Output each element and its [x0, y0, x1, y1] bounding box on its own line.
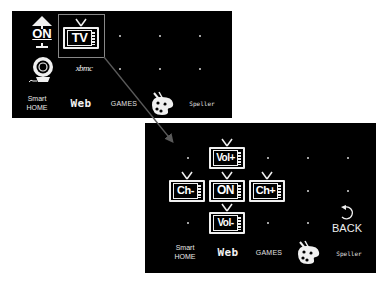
tv-power-button[interactable]: ON: [209, 171, 247, 203]
channel-down-button[interactable]: Ch-: [169, 171, 207, 203]
speller-label: Speller: [189, 100, 214, 107]
speller-label: Speller: [336, 250, 361, 257]
tv-knobs-icon: [238, 217, 241, 230]
empty-slot[interactable]: [119, 68, 121, 70]
tv-label: TV: [67, 30, 92, 46]
games-button[interactable]: GAMES: [249, 245, 289, 259]
smart-home-label-line1: Smart: [28, 94, 47, 103]
tv-control-panel: Vol+ Ch- ON Ch+: [145, 123, 376, 273]
webcam-icon: [27, 55, 57, 85]
tv-power-label: ON: [213, 183, 238, 199]
paint-palette-icon: [148, 91, 176, 117]
speller-button[interactable]: Speller: [329, 246, 369, 260]
smart-home-button[interactable]: Smart HOME: [22, 92, 52, 114]
tv-frame: Vol+: [209, 147, 245, 169]
tv-knobs-icon: [238, 152, 241, 165]
tv-knobs-icon: [238, 185, 241, 198]
tv-frame: Ch-: [169, 180, 205, 202]
main-menu-panel: ON TV xbmc Smart HOME: [12, 11, 232, 118]
tv-knobs-icon: [92, 32, 95, 45]
tv-frame: TV: [63, 27, 99, 49]
tv-frame: ON: [209, 180, 245, 202]
paint-button[interactable]: [147, 91, 177, 117]
paint-palette-icon: [294, 240, 322, 266]
empty-slot[interactable]: [267, 157, 269, 159]
empty-slot[interactable]: [307, 222, 309, 224]
web-button[interactable]: Web: [60, 95, 102, 111]
tv-knobs-icon: [198, 185, 201, 198]
webcam-button[interactable]: [27, 55, 57, 85]
empty-slot[interactable]: [199, 35, 201, 37]
empty-slot[interactable]: [347, 157, 349, 159]
smart-home-button[interactable]: Smart HOME: [170, 241, 200, 263]
empty-slot[interactable]: [187, 157, 189, 159]
games-label: GAMES: [111, 100, 137, 107]
power-on-label: ON: [31, 27, 53, 41]
back-button[interactable]: BACK: [329, 203, 365, 235]
channel-up-button[interactable]: Ch+: [249, 171, 287, 203]
tv-frame: Ch+: [249, 180, 285, 202]
speller-button[interactable]: Speller: [182, 96, 222, 110]
xbmc-logo: xbmc: [76, 63, 93, 73]
empty-slot[interactable]: [307, 190, 309, 192]
paint-button[interactable]: [293, 239, 323, 267]
back-arrow-icon: [338, 204, 356, 222]
xbmc-button[interactable]: xbmc: [64, 61, 104, 75]
empty-slot[interactable]: [347, 190, 349, 192]
empty-slot[interactable]: [159, 68, 161, 70]
channel-down-label: Ch-: [173, 183, 198, 199]
empty-slot[interactable]: [267, 222, 269, 224]
tv-frame: Vol-: [209, 212, 245, 234]
channel-up-label: Ch+: [253, 183, 278, 199]
volume-down-button[interactable]: Vol-: [209, 203, 247, 235]
tv-knobs-icon: [278, 185, 281, 198]
smart-home-label-line1: Smart: [176, 243, 195, 252]
volume-up-button[interactable]: Vol+: [209, 138, 247, 170]
volume-up-label: Vol+: [213, 150, 238, 166]
empty-slot[interactable]: [119, 35, 121, 37]
volume-down-label: Vol-: [213, 215, 238, 231]
web-button[interactable]: Web: [207, 244, 249, 260]
power-on-button[interactable]: ON: [29, 15, 55, 51]
empty-slot[interactable]: [187, 222, 189, 224]
back-label: BACK: [332, 222, 362, 234]
empty-slot[interactable]: [199, 68, 201, 70]
tv-button[interactable]: TV: [63, 18, 101, 50]
web-label: Web: [71, 97, 92, 110]
empty-slot[interactable]: [159, 35, 161, 37]
web-label: Web: [218, 246, 239, 259]
smart-home-label-line2: HOME: [175, 252, 196, 261]
games-button[interactable]: GAMES: [104, 96, 144, 110]
smart-home-label-line2: HOME: [27, 103, 48, 112]
empty-slot[interactable]: [307, 157, 309, 159]
games-label: GAMES: [256, 249, 282, 256]
